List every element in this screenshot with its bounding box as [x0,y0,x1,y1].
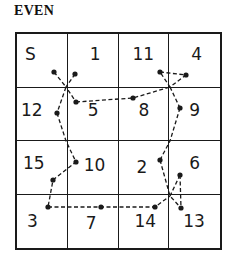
cell-number: 10 [84,155,106,175]
cell-number: 3 [27,211,38,231]
grid-cell: 5 [68,88,119,142]
cell-number: 1 [90,44,101,64]
cell-number: 2 [137,157,148,177]
grid-cell: 3 [17,195,68,249]
grid-cell: 10 [68,141,119,195]
cell-number: 15 [23,153,45,173]
grid-cell: 14 [119,195,170,249]
grid-cell: 8 [119,88,170,142]
grid-cell: 9 [169,88,220,142]
cell-number: 14 [135,211,157,231]
cell-number: 6 [189,153,200,173]
cell-number: 13 [183,211,205,231]
grid-cell: 7 [68,195,119,249]
cell-number: 5 [88,100,99,120]
cell-number: 8 [139,100,150,120]
number-grid: S111412589151026371413 [15,32,222,250]
grid-cell: 11 [119,34,170,88]
cell-number: S [25,44,36,64]
cell-number: 9 [189,100,200,120]
grid-cell: 12 [17,88,68,142]
diagram-title: EVEN [14,3,54,19]
grid-cell: S [17,34,68,88]
cell-number: 11 [133,44,155,64]
cell-number: 7 [86,213,97,233]
grid-cell: 6 [169,141,220,195]
grid-cell: 15 [17,141,68,195]
cell-number: 12 [21,100,43,120]
cell-number: 4 [191,44,202,64]
grid-cell: 1 [68,34,119,88]
grid-cell: 13 [169,195,220,249]
grid-cell: 2 [119,141,170,195]
grid-cell: 4 [169,34,220,88]
